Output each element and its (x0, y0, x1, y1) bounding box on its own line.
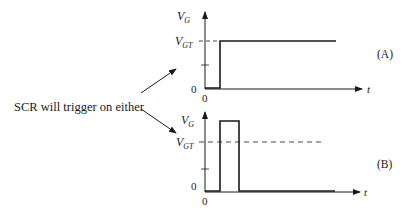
panel-b-x-zero: 0 (202, 195, 208, 207)
panel-a-x-label: t (367, 83, 371, 95)
panel-b-threshold-label: VGT (176, 135, 194, 151)
scr-trigger-diagram: SCR will trigger on either VG VGT 0 0 t … (0, 0, 413, 216)
caption-text: SCR will trigger on either (14, 100, 145, 114)
panel-a-x-zero: 0 (202, 92, 208, 104)
panel-b-y-label: VG (181, 113, 194, 129)
panel-b-y-zero: 0 (191, 180, 197, 192)
panel-b: VG VGT 0 0 t (B) (176, 112, 393, 207)
panel-a-step-waveform (205, 41, 336, 88)
panel-a: VG VGT 0 0 t (A) (175, 9, 393, 104)
panel-a-tag: (A) (377, 48, 393, 61)
panel-b-tag: (B) (377, 158, 393, 171)
panel-b-pulse-waveform (205, 121, 335, 191)
panel-a-threshold-label: VGT (175, 34, 193, 50)
arrow-to-panel-a (141, 69, 176, 93)
panel-a-y-zero: 0 (191, 83, 197, 95)
arrow-to-panel-b (141, 109, 176, 133)
panel-b-x-label: t (364, 186, 368, 198)
panel-a-y-label: VG (177, 9, 190, 25)
